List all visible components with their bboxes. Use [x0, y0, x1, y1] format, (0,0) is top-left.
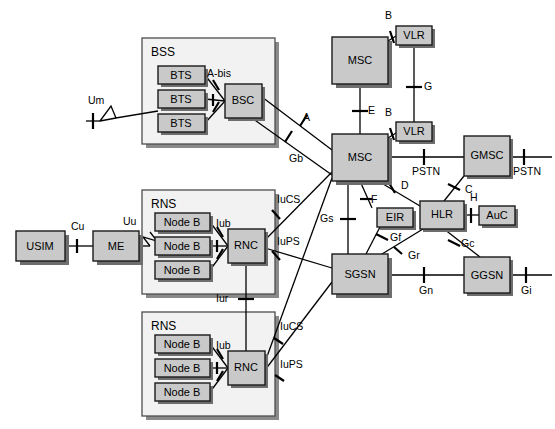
node-nodeb-3: Node B — [155, 261, 213, 282]
node-bsc: BSC — [225, 84, 265, 121]
node-bts-2: BTS — [158, 90, 208, 111]
group-label-rns-1: RNS — [151, 197, 176, 211]
node-label-hlr: HLR — [431, 208, 453, 220]
node-label-bts-2: BTS — [170, 93, 191, 105]
node-label-nodeb-3: Node B — [164, 264, 201, 276]
node-bts-1: BTS — [158, 66, 208, 87]
node-msc-1: MSC — [332, 37, 392, 88]
iface-label-d: D — [401, 179, 409, 191]
node-label-me: ME — [108, 240, 125, 252]
node-label-vlr-2: VLR — [403, 125, 424, 137]
node-label-nodeb-6: Node B — [164, 386, 201, 398]
iface-label-cu: Cu — [71, 220, 85, 232]
iface-label-pstn-1: PSTN — [412, 165, 440, 177]
iface-label-f: F — [371, 193, 377, 205]
iface-label-pstn-2: PSTN — [513, 165, 541, 177]
node-auc: AuC — [479, 206, 518, 228]
node-nodeb-5: Node B — [155, 359, 213, 380]
node-label-nodeb-5: Node B — [164, 362, 201, 374]
node-label-rnc-1: RNC — [234, 239, 258, 251]
node-nodeb-6: Node B — [155, 383, 213, 404]
iface-label-uu: Uu — [123, 215, 137, 227]
iface-label-e: E — [368, 104, 375, 116]
iface-label-a: A — [303, 111, 310, 123]
node-label-bts-1: BTS — [170, 69, 191, 81]
node-label-ggsn: GGSN — [471, 269, 503, 281]
node-msc-2: MSC — [332, 134, 392, 185]
iface-label-abis: A-bis — [207, 67, 231, 79]
iface-label-um: Um — [88, 94, 105, 106]
iface-label-gf: Gf — [390, 231, 401, 243]
node-ggsn: GGSN — [464, 257, 513, 296]
node-label-auc: AuC — [486, 209, 507, 221]
node-label-gmsc: GMSC — [471, 149, 504, 161]
node-label-msc-1: MSC — [348, 54, 373, 66]
node-nodeb-4: Node B — [155, 335, 213, 356]
node-eir: EIR — [377, 208, 416, 230]
iface-label-h: H — [470, 191, 478, 203]
node-label-sgsn: SGSN — [344, 268, 375, 280]
node-bts-3: BTS — [158, 114, 208, 135]
node-label-usim: USIM — [26, 240, 54, 252]
node-gmsc: GMSC — [464, 136, 513, 179]
iface-label-iur: Iur — [216, 292, 229, 304]
iface-label-gs: Gs — [320, 212, 333, 224]
node-vlr-1: VLR — [396, 26, 435, 48]
node-usim: USIM — [16, 231, 69, 265]
node-label-rnc-2: RNC — [234, 361, 258, 373]
node-nodeb-2: Node B — [155, 237, 213, 258]
node-rnc-2: RNC — [228, 351, 268, 388]
iface-label-iups-1: IuPS — [277, 235, 300, 247]
iface-label-gc: Gc — [461, 237, 474, 249]
iface-label-gb: Gb — [289, 152, 303, 164]
link-gs — [340, 181, 356, 254]
group-label-rns-2: RNS — [151, 319, 176, 333]
iface-label-gn: Gn — [419, 284, 433, 296]
node-label-bts-3: BTS — [170, 117, 191, 129]
iface-label-iub-1: Iub — [216, 217, 231, 229]
iface-label-g: G — [424, 80, 432, 92]
node-rnc-1: RNC — [228, 229, 268, 266]
node-label-nodeb-2: Node B — [164, 240, 201, 252]
node-nodeb-1: Node B — [155, 213, 213, 234]
node-me: ME — [93, 231, 143, 265]
iface-label-iucs-2: IuCS — [280, 320, 303, 332]
node-label-eir: EIR — [386, 211, 404, 223]
group-label-bss: BSS — [151, 45, 175, 59]
iface-label-gr: Gr — [408, 249, 420, 261]
iface-label-b-2: B — [385, 106, 392, 118]
node-hlr: HLR — [420, 201, 467, 232]
node-label-msc-2: MSC — [348, 151, 373, 163]
iface-label-iub-2: Iub — [216, 339, 231, 351]
node-label-vlr-1: VLR — [403, 29, 424, 41]
node-label-bsc: BSC — [232, 94, 255, 106]
iface-label-iups-2: IuPS — [280, 358, 303, 370]
node-label-nodeb-4: Node B — [164, 338, 201, 350]
iface-label-gi: Gi — [521, 284, 532, 296]
iface-label-b-1: B — [385, 9, 392, 21]
iface-label-iucs-1: IuCS — [277, 193, 300, 205]
diagram-canvas: BSS RNS RNS — [0, 0, 555, 429]
node-sgsn: SGSN — [332, 254, 392, 298]
network-architecture-diagram: BSS RNS RNS — [0, 0, 555, 429]
node-label-nodeb-1: Node B — [164, 216, 201, 228]
node-vlr-2: VLR — [396, 122, 435, 144]
